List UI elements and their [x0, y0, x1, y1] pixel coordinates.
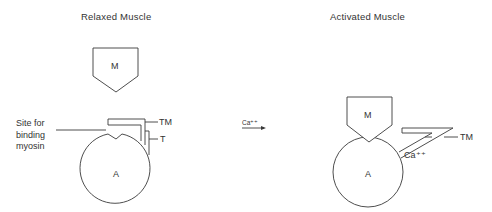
- relaxed-t-label: T: [160, 134, 166, 144]
- diagram-canvas: [0, 0, 492, 212]
- activated-actin-label: A: [365, 169, 371, 179]
- relaxed-myosin-label: M: [111, 61, 119, 71]
- activated-tm-label: TM: [460, 132, 473, 142]
- binding-site-label-line3: myosin: [16, 141, 45, 153]
- relaxed-title: Relaxed Muscle: [81, 12, 151, 22]
- ca-transition-label: Ca⁺⁺: [242, 118, 258, 128]
- binding-site-label-line1: Site for: [16, 118, 45, 130]
- binding-site-label: Site for binding myosin: [16, 118, 45, 153]
- relaxed-actin-label: A: [113, 169, 119, 179]
- arrow-right-icon: [261, 126, 266, 130]
- binding-site-label-line2: binding: [16, 130, 45, 142]
- relaxed-tm-label: TM: [159, 117, 172, 127]
- activated-calcium-label: Ca⁺⁺: [404, 150, 426, 160]
- activated-myosin-label: M: [364, 110, 372, 120]
- activated-title: Activated Muscle: [330, 12, 405, 22]
